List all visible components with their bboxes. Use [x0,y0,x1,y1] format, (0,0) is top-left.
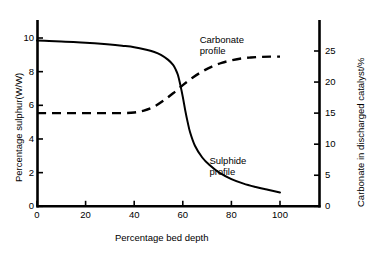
curve-annotation: Carbonate profile [200,34,244,56]
series-carbonate-profile-line [37,57,280,114]
bottom-axis-tick-label: 20 [71,210,101,220]
bottom-axis-tick-label: 60 [168,210,198,220]
chart-figure: 0246810 0510152025 020406080100 Percenta… [0,0,368,256]
x-axis-title: Percentage bed depth [115,233,209,243]
right-axis-tick-label: 20 [325,77,347,87]
right-axis-tick-label: 15 [325,108,347,118]
left-axis-tick-label: 10 [14,33,34,43]
bottom-axis-tick-label: 80 [216,210,246,220]
right-axis-tick-label: 10 [325,139,347,149]
bottom-axis-tick-label: 100 [265,210,295,220]
right-axis-tick-label: 25 [325,46,347,56]
right-axis-tick-label: 0 [325,201,347,211]
curve-annotation: Sulphide profile [209,155,246,177]
bottom-axis-tick-label: 0 [22,210,52,220]
right-axis-title: Carbonate in discharged catalyst/% [356,58,366,207]
left-axis-title: Percentage sulphur(W/W) [14,73,24,182]
bottom-axis-tick-label: 40 [119,210,149,220]
right-axis-tick-label: 5 [325,170,347,180]
